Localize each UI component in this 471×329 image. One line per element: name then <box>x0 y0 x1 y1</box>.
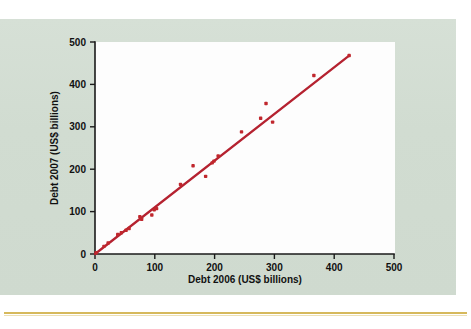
y-tick-label-400: 400 <box>69 79 86 90</box>
data-point <box>179 183 182 186</box>
data-point <box>259 117 262 120</box>
x-axis-ticks: 0100200300400500 <box>92 254 403 273</box>
data-point <box>240 130 243 133</box>
x-axis-title: Debt 2006 (US$ billions) <box>188 274 302 285</box>
data-point <box>120 231 123 234</box>
data-point <box>216 154 219 157</box>
data-point <box>204 175 207 178</box>
data-point <box>106 241 109 244</box>
data-point <box>347 54 350 57</box>
data-point <box>140 218 143 221</box>
data-point <box>155 207 158 210</box>
y-tick-label-500: 500 <box>69 37 86 48</box>
y-tick-label-100: 100 <box>69 206 86 217</box>
data-point <box>127 227 130 230</box>
data-point <box>312 74 315 77</box>
x-tick-label-100: 100 <box>146 262 163 273</box>
y-axis-ticks: 0100200300400500 <box>69 37 95 260</box>
x-tick-label-200: 200 <box>206 262 223 273</box>
data-point <box>150 213 153 216</box>
data-point <box>191 164 194 167</box>
data-point <box>102 245 105 248</box>
y-tick-label-200: 200 <box>69 164 86 175</box>
x-tick-label-300: 300 <box>266 262 283 273</box>
data-point <box>264 102 267 105</box>
gold-divider-rule <box>4 312 467 314</box>
x-tick-label-400: 400 <box>326 262 343 273</box>
data-point <box>94 251 97 254</box>
y-tick-label-0: 0 <box>80 249 86 260</box>
data-point <box>271 120 274 123</box>
y-tick-label-300: 300 <box>69 121 86 132</box>
data-point <box>212 159 215 162</box>
gold-divider-rule-highlight <box>4 315 467 316</box>
data-point <box>124 229 127 232</box>
scatter-chart: 0100200300400500 0100200300400500 Debt 2… <box>0 0 471 329</box>
y-axis-title: Debt 2007 (US$ billions) <box>49 91 60 205</box>
trend-line <box>95 56 349 254</box>
x-tick-label-500: 500 <box>386 262 403 273</box>
trend-line-segment <box>95 56 349 254</box>
data-point <box>116 233 119 236</box>
x-tick-label-0: 0 <box>92 262 98 273</box>
